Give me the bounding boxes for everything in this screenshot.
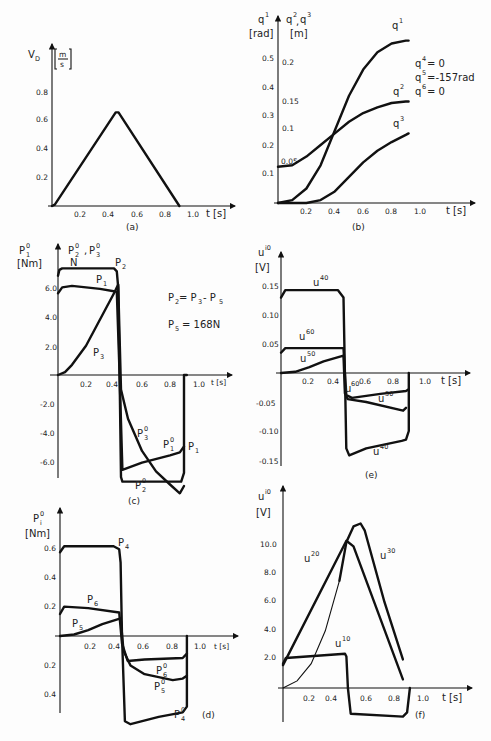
x-tick-labels: 0.2 0.4 0.6 0.8 1.0 t [s] [74, 208, 226, 219]
svg-text:0.8: 0.8 [385, 207, 397, 216]
x-tick-labels: 0.2 0.4 0.6 0.8 1.0 t [s] [303, 692, 462, 703]
svg-text:0.2: 0.2 [262, 141, 274, 150]
svg-text:0.6: 0.6 [357, 207, 369, 216]
svg-text:= 0: = 0 [427, 58, 445, 69]
svg-text:0.4: 0.4 [262, 83, 274, 92]
svg-text:P: P [68, 245, 74, 256]
svg-text:[V]: [V] [256, 507, 271, 518]
svg-text:t [s]: t [s] [214, 642, 229, 651]
svg-text:1: 1 [170, 445, 174, 453]
svg-text:0.4: 0.4 [44, 573, 56, 582]
curve-u10 [283, 654, 410, 717]
svg-text:0.4: 0.4 [36, 144, 48, 153]
svg-text:4: 4 [422, 55, 426, 63]
y-axis-labels: P 0 i [Nm] [25, 510, 50, 539]
svg-text:0.2: 0.2 [303, 694, 315, 703]
svg-text:u: u [258, 491, 264, 502]
svg-text:t [s]: t [s] [442, 692, 462, 703]
svg-text:0.2: 0.2 [302, 377, 314, 386]
svg-text:0.4: 0.4 [328, 207, 340, 216]
svg-text:m: m [59, 50, 66, 59]
curve-vd [52, 112, 179, 206]
curve-q3 [278, 133, 409, 203]
svg-text:i0: i0 [265, 488, 271, 496]
svg-text:1.0: 1.0 [414, 207, 426, 216]
svg-text:0.6: 0.6 [360, 694, 372, 703]
svg-text:0.10: 0.10 [262, 311, 279, 320]
svg-text:q: q [415, 72, 421, 83]
y-axis-label: V D m s [28, 49, 71, 69]
panel-e: 0.15 0.10 0.05 -0.05 -0.10 -0.15 0.2 0.4… [255, 244, 470, 480]
svg-text:0.15: 0.15 [282, 97, 299, 106]
joint-annotations: q 4 = 0 q 5 =-157rad q 6 = 0 [415, 55, 475, 97]
y-tick-labels: 0.15 0.10 0.05 -0.05 -0.10 -0.15 [256, 282, 279, 466]
curve-u30-thin-start [283, 581, 339, 688]
svg-text:0.4: 0.4 [108, 642, 120, 651]
svg-text:8.0: 8.0 [264, 568, 276, 577]
svg-text:P: P [168, 292, 174, 303]
svg-text:0: 0 [96, 242, 100, 250]
svg-text:0.4: 0.4 [106, 380, 118, 389]
y-axis-labels: u i0 [V] [255, 244, 271, 273]
svg-text:4.0: 4.0 [264, 625, 276, 634]
svg-text:u: u [258, 247, 264, 258]
svg-text:,: , [296, 16, 299, 27]
svg-text:0.4: 0.4 [44, 690, 56, 699]
svg-text:4: 4 [181, 715, 185, 723]
svg-text:-4.0: -4.0 [40, 429, 55, 438]
svg-text:1.0: 1.0 [194, 642, 206, 651]
svg-text:1: 1 [265, 11, 269, 19]
svg-text:6: 6 [94, 600, 98, 608]
svg-text:-6.0: -6.0 [40, 458, 55, 467]
svg-text:P: P [168, 319, 174, 330]
y-tick-labels: 0.2 0.4 0.6 0.8 [36, 88, 48, 182]
svg-text:5: 5 [79, 624, 83, 632]
svg-text:4.0: 4.0 [45, 313, 57, 322]
caption-c: (c) [128, 496, 140, 506]
svg-text:t [s]: t [s] [206, 208, 226, 219]
svg-text:-0.15: -0.15 [259, 457, 279, 466]
caption-f: (f) [415, 710, 425, 720]
svg-text:q: q [415, 86, 421, 97]
svg-text:-0.05: -0.05 [256, 399, 276, 408]
svg-text:0.8: 0.8 [387, 377, 399, 386]
y-tick-labels: 0.6 0.4 0.2 0.2 0.4 [44, 544, 56, 699]
svg-text:= 0: = 0 [427, 86, 445, 97]
svg-text:- P: - P [203, 292, 216, 303]
svg-text:2.0: 2.0 [45, 343, 57, 352]
svg-text:1.0: 1.0 [417, 694, 429, 703]
svg-text:t [s]: t [s] [211, 378, 226, 387]
svg-text:0.15: 0.15 [262, 282, 279, 291]
svg-text:0.2: 0.2 [84, 642, 96, 651]
svg-text:0.1: 0.1 [282, 124, 294, 133]
svg-text:= P: = P [179, 292, 197, 303]
curve-q1 [278, 41, 409, 203]
curve-p4 [60, 546, 187, 724]
svg-text:0.6: 0.6 [137, 642, 149, 651]
svg-text:0.4: 0.4 [325, 694, 337, 703]
svg-text:30: 30 [387, 547, 395, 555]
svg-text:6.0: 6.0 [45, 284, 57, 293]
svg-text:q: q [286, 14, 292, 25]
svg-text:5: 5 [175, 325, 179, 333]
svg-text:V: V [28, 49, 35, 60]
svg-text:3: 3 [144, 434, 148, 442]
svg-text:0.8: 0.8 [166, 642, 178, 651]
svg-text:P: P [188, 441, 194, 452]
svg-text:0: 0 [144, 425, 148, 433]
svg-text:q: q [392, 20, 398, 31]
svg-text:[rad]: [rad] [249, 28, 273, 39]
svg-text:0.1: 0.1 [262, 169, 274, 178]
svg-text:=-157rad: =-157rad [427, 72, 475, 83]
svg-text:60: 60 [351, 380, 359, 388]
svg-text:P: P [154, 681, 160, 692]
svg-text:P: P [72, 618, 78, 629]
svg-text:= 168N: = 168N [182, 319, 220, 330]
svg-text:0.2: 0.2 [282, 58, 294, 67]
svg-text:0: 0 [75, 242, 79, 250]
x-tick-labels: 0.2 0.4 0.6 0.8 1.0 t [s] [302, 375, 461, 386]
svg-text:4: 4 [125, 543, 129, 551]
svg-text:0.8: 0.8 [36, 88, 48, 97]
svg-text:0.6: 0.6 [36, 115, 48, 124]
svg-text:0: 0 [181, 706, 185, 714]
